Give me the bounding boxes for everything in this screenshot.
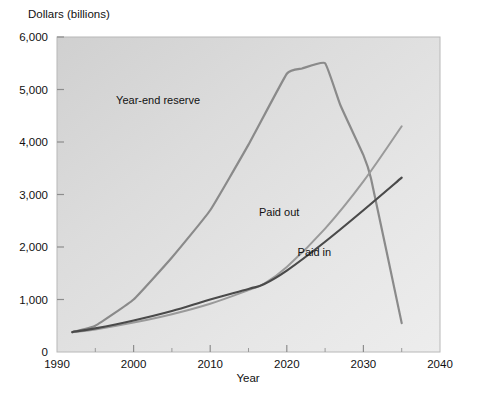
y-tick-label: 4,000: [19, 136, 48, 148]
y-axis-tick-labels: 01,0002,0003,0004,0005,0006,000: [19, 31, 48, 358]
y-tick-label: 3,000: [19, 189, 48, 201]
x-tick-label: 1990: [44, 358, 70, 370]
y-tick-label: 0: [42, 346, 48, 358]
y-tick-label: 1,000: [19, 294, 48, 306]
x-tick-label: 2000: [121, 358, 147, 370]
chart-figure: 01,0002,0003,0004,0005,0006,000 19902000…: [0, 0, 477, 410]
x-axis-title: Year: [236, 372, 259, 384]
x-tick-label: 2010: [197, 358, 223, 370]
series-annotation: Paid out: [259, 206, 299, 218]
x-tick-label: 2030: [351, 358, 377, 370]
line-chart: 01,0002,0003,0004,0005,0006,000 19902000…: [0, 0, 477, 410]
x-axis-tick-labels: 199020002010202020302040: [44, 358, 453, 370]
y-tick-label: 2,000: [19, 241, 48, 253]
y-tick-label: 5,000: [19, 84, 48, 96]
series-annotation: Year-end reserve: [116, 94, 200, 106]
series-annotation: Paid in: [298, 246, 332, 258]
y-tick-label: 6,000: [19, 31, 48, 43]
x-tick-label: 2040: [427, 358, 453, 370]
x-tick-label: 2020: [274, 358, 300, 370]
y-axis-title: Dollars (billions): [28, 8, 110, 20]
